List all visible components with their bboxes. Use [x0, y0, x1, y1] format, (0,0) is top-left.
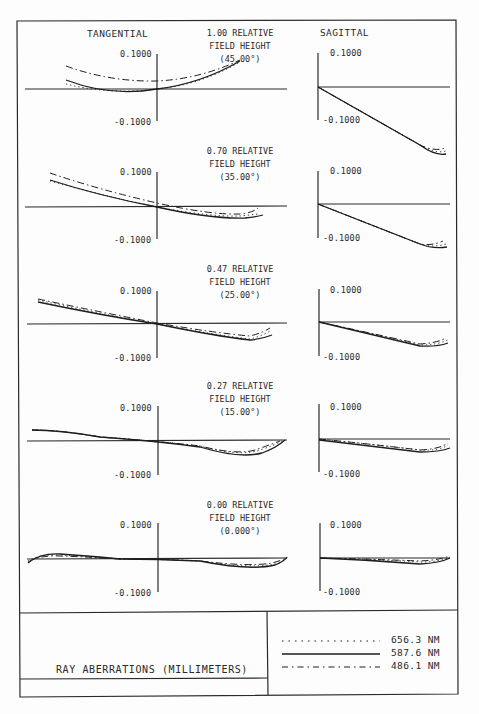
legend-label-587: 587.6 NM [391, 647, 440, 658]
sagittal-ymax-label: 0.1000 [330, 520, 362, 530]
tangential-ymax-label: 0.1000 [120, 403, 152, 413]
field-angle: (0.000°) [185, 525, 295, 538]
tangential-ymin-label: -0.1000 [114, 117, 151, 127]
tangential-ymax-label: 0.1000 [120, 167, 152, 177]
ray-aberration-plot-page: TANGENTIAL SAGITTAL 0.1000 -0.1000 0.100… [0, 0, 479, 714]
tangential-ymin-label: -0.1000 [114, 235, 151, 245]
sagittal-ymin-label: -0.1000 [323, 233, 360, 243]
legend-label-656: 656.3 NM [391, 634, 440, 645]
tangential-ymax-label: 0.1000 [120, 49, 152, 59]
field-height: FIELD HEIGHT [185, 40, 295, 53]
tangential-ymin-label: -0.1000 [114, 353, 151, 363]
field-height: FIELD HEIGHT [185, 393, 295, 406]
legend-label-486: 486.1 NM [391, 660, 440, 671]
sagittal-ymax-label: 0.1000 [330, 166, 362, 176]
tangential-ymax-label: 0.1000 [120, 286, 152, 296]
field-angle: (45.00°) [185, 53, 295, 66]
field-angle: (25.00°) [185, 289, 295, 302]
field-relative: 0.70 RELATIVE [185, 145, 295, 158]
sagittal-ymax-label: 0.1000 [330, 285, 362, 295]
sagittal-ymin-label: -0.1000 [323, 115, 360, 125]
field-height: FIELD HEIGHT [185, 512, 295, 525]
sagittal-ymin-label: -0.1000 [323, 469, 360, 479]
field-label-1: 1.00 RELATIVE FIELD HEIGHT (45.00°) [185, 27, 295, 66]
aberration-curves [28, 60, 450, 567]
field-relative: 0.00 RELATIVE [185, 499, 295, 512]
sagittal-ymin-label: -0.1000 [323, 352, 360, 362]
field-relative: 1.00 RELATIVE [185, 27, 295, 40]
tangential-header: TANGENTIAL [87, 28, 148, 39]
plot-canvas [0, 0, 479, 714]
field-relative: 0.47 RELATIVE [185, 263, 295, 276]
field-label-5: 0.00 RELATIVE FIELD HEIGHT (0.000°) [185, 499, 295, 538]
field-label-3: 0.47 RELATIVE FIELD HEIGHT (25.00°) [185, 263, 295, 302]
tangential-ymax-label: 0.1000 [120, 520, 152, 530]
tangential-ymin-label: -0.1000 [114, 588, 151, 598]
legend-samples [282, 641, 380, 667]
field-relative: 0.27 RELATIVE [185, 380, 295, 393]
field-height: FIELD HEIGHT [185, 276, 295, 289]
field-angle: (15.00°) [185, 406, 295, 419]
sagittal-ymin-label: -0.1000 [323, 587, 360, 597]
sagittal-ymax-label: 0.1000 [330, 48, 362, 58]
plot-title: RAY ABERRATIONS (MILLIMETERS) [56, 664, 248, 675]
field-angle: (35.00°) [185, 171, 295, 184]
frame [17, 20, 458, 697]
field-label-4: 0.27 RELATIVE FIELD HEIGHT (15.00°) [185, 380, 295, 419]
field-height: FIELD HEIGHT [185, 158, 295, 171]
tangential-ymin-label: -0.1000 [114, 470, 151, 480]
sagittal-ymax-label: 0.1000 [330, 402, 362, 412]
field-label-2: 0.70 RELATIVE FIELD HEIGHT (35.00°) [185, 145, 295, 184]
sagittal-header: SAGITTAL [320, 27, 369, 38]
